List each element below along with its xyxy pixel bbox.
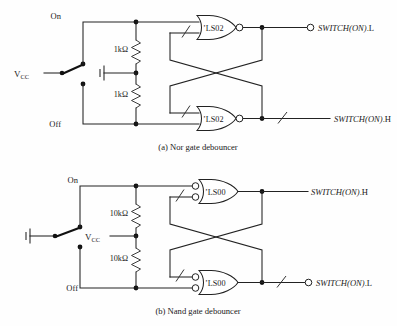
panel-a-resistor-lower-label: 1kΩ bbox=[114, 90, 128, 99]
panel-a-vcc-label: VCC bbox=[14, 69, 29, 80]
panel-b-gate-upper-label: ’LS00 bbox=[205, 188, 225, 197]
ground-icon bbox=[26, 229, 30, 243]
panel-a-switch-pivot-dot bbox=[60, 71, 65, 76]
panel-b-gate-lower-label: ’LS00 bbox=[205, 279, 225, 288]
circuit-svg: VCC On Off bbox=[0, 0, 397, 326]
panel-b-gate-lower-slash bbox=[176, 270, 184, 282]
panel-a-nor-debouncer: VCC On Off bbox=[14, 11, 391, 152]
panel-a-output-lower-label: SWITCH(ON).H bbox=[334, 114, 391, 124]
panel-b-gate-lower: ’LS00 bbox=[136, 270, 238, 295]
panel-a-output-upper-label: SWITCH(ON).L bbox=[318, 23, 374, 33]
panel-b-nand-debouncer: On Off VCC 10kΩ 10kΩ bbox=[26, 175, 372, 316]
panel-a-output-lower-slash bbox=[278, 112, 287, 124]
panel-b-vcc-label: VCC bbox=[85, 232, 100, 243]
panel-b-caption: (b) Nand gate debouncer bbox=[155, 306, 240, 316]
panel-a-gate-upper-label: ’LS02 bbox=[203, 24, 223, 33]
panel-b-gate-upper-slash bbox=[176, 190, 184, 202]
panel-a-off-label: Off bbox=[49, 119, 61, 129]
panel-a-feedback-lower-to-upper bbox=[170, 33, 262, 119]
panel-a-gate-upper-slash bbox=[182, 26, 190, 38]
panel-b-resistor-lower bbox=[132, 248, 141, 272]
ground-icon bbox=[100, 66, 104, 80]
panel-b-nand-gate-lower-input-bubble-b bbox=[192, 285, 199, 292]
panel-b-on-rail bbox=[80, 186, 136, 227]
panel-b-feedback-upper-to-lower bbox=[170, 192, 262, 278]
panel-a-feedback-upper-to-lower bbox=[170, 28, 262, 114]
panel-a-gate-upper: ’LS02 bbox=[136, 16, 243, 40]
panel-a-output-upper-bubble bbox=[307, 24, 314, 31]
panel-b-output-lower-bubble bbox=[305, 279, 312, 286]
panel-b-resistor-divider: VCC 10kΩ 10kΩ bbox=[85, 184, 141, 291]
panel-b-switch-pivot-dot bbox=[53, 234, 58, 239]
panel-b-gate-upper: ’LS00 bbox=[136, 180, 238, 204]
panel-a-nor-gate-lower-output-bubble bbox=[236, 115, 243, 122]
panel-b-resistor-lower-label: 10kΩ bbox=[110, 254, 128, 263]
panel-a-switch-blade[interactable] bbox=[62, 65, 82, 74]
panel-a-output-lower: SWITCH(ON).H bbox=[262, 112, 391, 124]
panel-a-gate-lower-slash bbox=[182, 106, 190, 118]
panel-a-caption: (a) Nor gate debouncer bbox=[158, 142, 238, 152]
panel-b-nand-gate-upper-input-bubble-b bbox=[192, 194, 199, 201]
panel-b-on-label: On bbox=[68, 175, 79, 185]
panel-b-off-label: Off bbox=[66, 283, 78, 293]
panel-a-off-rail bbox=[83, 84, 136, 124]
panel-a-gate-lower-label: ’LS02 bbox=[203, 115, 223, 124]
panel-a-on-rail bbox=[83, 22, 136, 64]
panel-b-output-lower-slash bbox=[277, 276, 286, 288]
panel-a-gate-lower: ’LS02 bbox=[136, 106, 243, 131]
panel-b-resistor-upper bbox=[132, 204, 141, 228]
circuit-figure: VCC On Off bbox=[0, 0, 397, 326]
panel-b-nand-gate-lower-input-bubble-a bbox=[192, 274, 199, 281]
panel-a-resistor-lower bbox=[132, 84, 141, 108]
panel-b-output-upper: SWITCH(ON).H bbox=[262, 187, 368, 197]
panel-b-resistor-upper-label: 10kΩ bbox=[110, 209, 128, 218]
panel-b-output-upper-label: SWITCH(ON).H bbox=[311, 187, 368, 197]
panel-a-on-label: On bbox=[51, 11, 62, 21]
panel-b-output-lower-label: SWITCH(ON).L bbox=[316, 278, 372, 288]
panel-a-resistor-divider: 1kΩ 1kΩ bbox=[100, 20, 141, 127]
panel-a-supply-switch: VCC On Off bbox=[14, 11, 136, 129]
panel-b-output-lower: SWITCH(ON).L bbox=[262, 276, 372, 288]
panel-b-switch-blade[interactable] bbox=[55, 228, 79, 237]
panel-b-supply-switch: On Off bbox=[26, 175, 136, 293]
panel-b-nand-gate-upper-input-bubble-a bbox=[192, 183, 199, 190]
panel-a-cross-coupling bbox=[170, 25, 264, 121]
panel-a-output-upper: SWITCH(ON).L bbox=[262, 23, 374, 33]
panel-a-nor-gate-upper-output-bubble bbox=[236, 24, 243, 31]
panel-a-resistor-upper bbox=[132, 40, 141, 64]
panel-a-resistor-upper-label: 1kΩ bbox=[114, 45, 128, 54]
